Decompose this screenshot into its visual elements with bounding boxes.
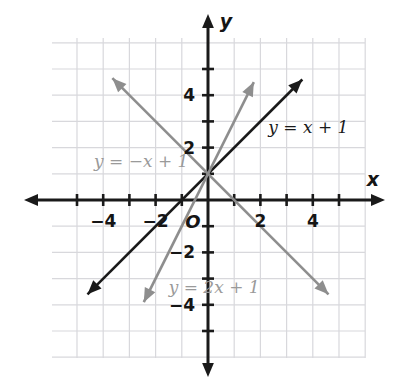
x-tick-label: 4 xyxy=(307,211,319,231)
equation-label: y = x + 1 xyxy=(267,117,348,137)
x-tick-label: 2 xyxy=(254,211,266,231)
y-tick-label: 4 xyxy=(183,85,195,105)
y-tick-label: −4 xyxy=(169,295,195,315)
graph-canvas: −4−22442−2−4 x y O y = x + 1y = 2x + 1y … xyxy=(0,0,401,389)
y-axis-label: y xyxy=(220,10,234,32)
equation-label: y = −x + 1 xyxy=(93,151,188,171)
coordinate-plane-figure: −4−22442−2−4 x y O y = x + 1y = 2x + 1y … xyxy=(0,0,401,389)
y-tick-label: −2 xyxy=(169,242,195,262)
equation-label: y = 2x + 1 xyxy=(168,277,260,297)
x-axis-label: x xyxy=(366,168,380,190)
x-tick-label: −2 xyxy=(143,211,169,231)
x-tick-label: −4 xyxy=(90,211,116,231)
origin-label: O xyxy=(185,211,200,232)
